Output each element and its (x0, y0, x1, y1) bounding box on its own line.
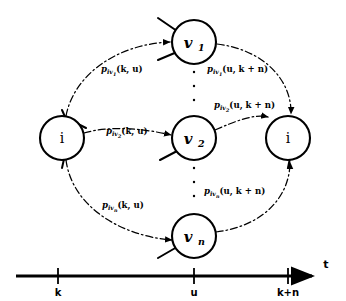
node-i-right[interactable]: i (266, 116, 310, 160)
network-time-diagram: i v 1 v 2 v n i (0, 0, 346, 301)
edge-ileft-v1 (66, 42, 170, 116)
node-label-i-right: i (286, 130, 291, 146)
edge-label-args: (k, u) (116, 64, 142, 75)
edge-label-p-iv2-u-kn: piv2(u, k + n) (214, 100, 275, 113)
node-label-v2-sub: 2 (197, 138, 205, 149)
edge-label-p-ivn-u-kn: pivn(u, k + n) (204, 186, 265, 199)
ellipsis-upper (193, 71, 195, 101)
node-i-left[interactable]: i (40, 116, 84, 160)
axis-tick-label-k-plus-n: k+n (277, 287, 299, 298)
node-v2[interactable]: v 2 (172, 116, 216, 160)
node-circle-v2 (172, 116, 216, 160)
ellipsis-dot (193, 181, 195, 183)
ellipsis-dot (193, 167, 195, 169)
edge-label-args: (u, k + n) (222, 64, 268, 75)
node-label-i-left: i (60, 130, 65, 146)
edge-label-args: (u, k + n) (219, 186, 265, 197)
node-vn[interactable]: v n (172, 214, 216, 258)
edge-label-args: (k, u) (117, 200, 143, 211)
edge-label-p-iv1-k-u: piv1(k, u) (101, 64, 143, 77)
edge-v2-iright (215, 116, 268, 130)
edge-label-p-ivn-k-u: pivn(k, u) (102, 200, 144, 213)
ellipsis-dot (193, 99, 195, 101)
node-label-v1-sub: 1 (198, 42, 205, 53)
node-label-vn: v (184, 228, 193, 246)
node-label-vn-sub: n (198, 236, 205, 247)
edge-label-p-iv1-u-kn: piv1(u, k + n) (207, 64, 268, 77)
node-v1[interactable]: v 1 (172, 20, 216, 64)
axis-name-t: t (323, 258, 328, 271)
node-circle-vn (172, 214, 216, 258)
ellipsis-lower (193, 167, 195, 197)
node-label-v2: v (184, 130, 193, 148)
ellipsis-dot (193, 195, 195, 197)
node-label-v1: v (184, 34, 193, 52)
axis-tick-label-k: k (55, 287, 62, 298)
edge-vn-iright (216, 162, 290, 232)
figure-root: i v 1 v 2 v n i (0, 0, 346, 301)
axis-tick-label-u: u (190, 287, 197, 298)
stub-vn-a (158, 247, 177, 258)
ellipsis-dot (193, 85, 195, 87)
ellipsis-dot (193, 71, 195, 73)
time-axis: k u k+n t (16, 258, 329, 298)
edge-label-args: (u, k + n) (229, 100, 275, 111)
stub-v1-a (158, 18, 177, 31)
edge-label-args: (k, u) (121, 126, 147, 137)
edge-label-p-iv2-k-u: piv2(k, u) (106, 126, 148, 139)
node-circle-v1 (172, 20, 216, 64)
